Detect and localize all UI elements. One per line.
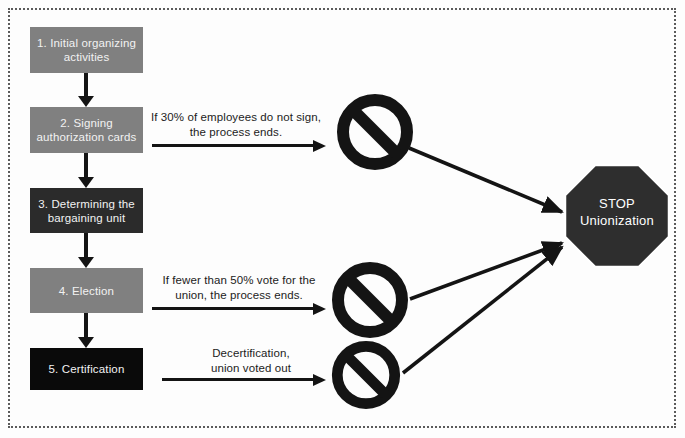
stage-5-line-1: 5. Certification bbox=[49, 362, 125, 376]
flow-arrow-3-to-4-head bbox=[78, 257, 94, 268]
stage-box-5[interactable]: 5. Certification bbox=[30, 348, 143, 390]
stop-sign-line-1: STOP bbox=[599, 196, 635, 211]
stage-2-line-2: authorization cards bbox=[36, 130, 136, 144]
prohibition-sign-2[interactable] bbox=[331, 261, 409, 339]
flow-arrow-3-to-4-shaft bbox=[84, 233, 88, 257]
flow-arrow-1-to-2-head bbox=[78, 96, 94, 107]
stage-box-4[interactable]: 4. Election bbox=[30, 268, 143, 313]
branch-2-line-1: If fewer than 50% vote for the bbox=[162, 274, 315, 286]
stop-unionization-sign[interactable]: STOP Unionization bbox=[564, 164, 670, 268]
stage-2-line-1: 2. Signing bbox=[36, 116, 136, 130]
prohibition-icon bbox=[331, 261, 409, 339]
converge-arrow-from-sign-2 bbox=[410, 243, 562, 299]
branch-2-arrow-shaft bbox=[152, 307, 315, 310]
stop-sign-text: STOP Unionization bbox=[564, 196, 670, 229]
branch-3-arrow-head bbox=[313, 374, 326, 386]
branch-3-arrow-shaft bbox=[162, 378, 315, 381]
stage-3-line-2: bargaining unit bbox=[38, 211, 135, 225]
branch-3-line-1: Decertification, bbox=[212, 347, 290, 359]
flow-arrow-1-to-2-shaft bbox=[84, 73, 88, 97]
flow-arrow-4-to-5-shaft bbox=[84, 313, 88, 337]
branch-3-caption: Decertification, union voted out bbox=[176, 346, 326, 375]
stage-3-line-1: 3. Determining the bbox=[38, 197, 135, 211]
prohibition-sign-3[interactable] bbox=[331, 340, 401, 410]
prohibition-icon bbox=[331, 340, 401, 410]
branch-3-line-2: union voted out bbox=[211, 362, 291, 374]
flow-arrow-2-to-3-head bbox=[78, 177, 94, 188]
converge-arrow-from-sign-3 bbox=[403, 247, 562, 373]
branch-2-caption: If fewer than 50% vote for the union, th… bbox=[146, 273, 332, 302]
prohibition-sign-1[interactable] bbox=[336, 93, 414, 171]
flow-arrow-2-to-3-shaft bbox=[84, 153, 88, 177]
stage-box-2[interactable]: 2. Signing authorization cards bbox=[30, 107, 143, 153]
stage-box-1[interactable]: 1. Initial organizing activities bbox=[30, 27, 143, 73]
branch-1-line-1: If 30% of employees do not sign, bbox=[151, 111, 321, 123]
stage-4-line-1: 4. Election bbox=[59, 284, 114, 298]
stage-box-3[interactable]: 3. Determining the bargaining unit bbox=[30, 188, 143, 233]
branch-2-line-2: union, the process ends. bbox=[175, 289, 303, 301]
diagram-canvas: 1. Initial organizing activities 2. Sign… bbox=[0, 0, 685, 438]
converge-arrow-from-sign-1 bbox=[409, 148, 562, 212]
stage-1-line-2: activities bbox=[37, 50, 136, 64]
stage-1-line-1: 1. Initial organizing bbox=[37, 36, 136, 50]
branch-1-arrow-head bbox=[313, 140, 326, 152]
prohibition-icon bbox=[336, 93, 414, 171]
branch-1-line-2: the process ends. bbox=[190, 126, 282, 138]
stop-sign-line-2: Unionization bbox=[580, 213, 654, 228]
flow-arrow-4-to-5-head bbox=[78, 337, 94, 348]
branch-1-caption: If 30% of employees do not sign, the pro… bbox=[140, 110, 332, 139]
branch-1-arrow-shaft bbox=[152, 144, 315, 147]
branch-2-arrow-head bbox=[313, 303, 326, 315]
